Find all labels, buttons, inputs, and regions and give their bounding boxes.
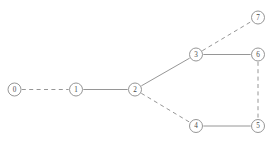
edge-layer — [22, 21, 258, 126]
graph-node-label-5: 5 — [256, 122, 260, 130]
graph-node-6[interactable]: 6 — [252, 48, 265, 61]
graph-canvas: 01234567 — [0, 0, 277, 143]
graph-node-5[interactable]: 5 — [252, 120, 265, 133]
graph-node-4[interactable]: 4 — [190, 120, 203, 133]
node-layer: 01234567 — [8, 11, 265, 133]
graph-edge-3-7 — [202, 21, 251, 51]
graph-edge-2-3 — [141, 58, 189, 86]
graph-node-3[interactable]: 3 — [190, 48, 203, 61]
graph-node-label-1: 1 — [74, 86, 78, 94]
graph-node-label-4: 4 — [194, 122, 198, 130]
graph-node-2[interactable]: 2 — [129, 83, 142, 96]
graph-node-label-7: 7 — [256, 14, 260, 22]
graph-edge-2-4 — [141, 93, 189, 122]
graph-figure: 01234567 — [0, 0, 277, 143]
graph-node-1[interactable]: 1 — [70, 83, 83, 96]
graph-node-0[interactable]: 0 — [8, 83, 21, 96]
graph-node-label-2: 2 — [133, 86, 137, 94]
graph-node-label-3: 3 — [194, 51, 198, 59]
graph-node-label-0: 0 — [13, 86, 17, 94]
graph-node-7[interactable]: 7 — [252, 11, 265, 24]
graph-node-label-6: 6 — [256, 51, 260, 59]
